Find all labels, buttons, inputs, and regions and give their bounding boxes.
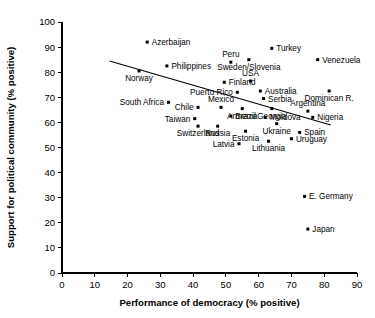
- data-point-marker: [249, 79, 252, 82]
- data-point-marker: [264, 116, 267, 119]
- data-point-label: Moldova: [270, 113, 301, 122]
- data-point-marker: [167, 101, 170, 104]
- data-point-marker: [311, 116, 314, 119]
- data-point-marker: [238, 142, 241, 145]
- data-point-label: Latvia: [213, 140, 235, 149]
- data-point-label: Azerbaijan: [152, 38, 191, 47]
- y-tick-label: 40: [44, 167, 55, 178]
- data-point-marker: [316, 58, 319, 61]
- data-point-label: Estonia: [232, 134, 260, 143]
- data-point-label: Serbia: [268, 95, 292, 104]
- data-point-marker: [262, 97, 265, 100]
- y-tick-label: 30: [44, 192, 55, 203]
- scatter-chart: 0102030405060708090100010203040506070809…: [0, 0, 375, 318]
- x-tick-label: 50: [221, 279, 232, 290]
- data-point-label: Chile: [175, 103, 194, 112]
- data-point-label: E. Germany: [309, 192, 354, 201]
- data-point-label: Argentina: [290, 99, 325, 108]
- x-tick-label: 80: [319, 279, 330, 290]
- data-point-marker: [306, 228, 309, 231]
- data-point-label: South Africa: [120, 98, 165, 107]
- data-points: AzerbaijanTurkeyPeruPhilippinesVenezuela…: [120, 38, 361, 234]
- data-point-marker: [267, 140, 270, 143]
- y-tick-label: 70: [44, 92, 55, 103]
- data-point-marker: [146, 41, 149, 44]
- y-tick-label: 80: [44, 67, 55, 78]
- data-point-marker: [306, 110, 309, 113]
- y-tick-label: 100: [39, 16, 55, 27]
- data-point-label: Lithuania: [252, 144, 286, 153]
- data-point-marker: [138, 69, 141, 72]
- axes: 0102030405060708090100010203040506070809…: [39, 16, 362, 290]
- data-point-marker: [236, 91, 239, 94]
- data-point-marker: [197, 125, 200, 128]
- data-point-marker: [223, 81, 226, 84]
- data-point-marker: [165, 64, 168, 67]
- data-point-marker: [270, 47, 273, 50]
- y-axis-title: Support for political community (% posit…: [5, 47, 16, 248]
- data-point-label: Ukraine: [263, 127, 292, 136]
- data-point-label: Taiwan: [165, 115, 191, 124]
- x-tick-label: 0: [59, 279, 64, 290]
- y-tick-label: 20: [44, 217, 55, 228]
- data-point-marker: [241, 107, 244, 110]
- y-tick-label: 10: [44, 242, 55, 253]
- plot-canvas: 0102030405060708090100010203040506070809…: [0, 0, 375, 318]
- data-point-marker: [275, 122, 278, 125]
- data-point-marker: [290, 137, 293, 140]
- data-point-label: Nigeria: [317, 113, 343, 122]
- data-point-label: Mexico: [208, 95, 234, 104]
- x-tick-label: 60: [253, 279, 264, 290]
- data-point-label: Venezuela: [322, 56, 361, 65]
- data-point-marker: [244, 130, 247, 133]
- data-point-label: Norway: [125, 74, 154, 83]
- y-tick-label: 90: [44, 42, 55, 53]
- data-point-marker: [197, 106, 200, 109]
- x-axis-title: Performance of democracy (% positive): [119, 297, 299, 308]
- data-point-marker: [328, 90, 331, 93]
- x-tick-label: 20: [122, 279, 133, 290]
- data-point-label: Japan: [312, 225, 335, 234]
- data-point-marker: [193, 117, 196, 120]
- y-tick-label: 0: [50, 267, 55, 278]
- data-point-marker: [270, 107, 273, 110]
- y-tick-label: 50: [44, 142, 55, 153]
- x-tick-label: 10: [89, 279, 100, 290]
- data-point-marker: [219, 106, 222, 109]
- x-tick-label: 30: [155, 279, 166, 290]
- data-point-label: Uruguay: [296, 135, 328, 144]
- data-point-marker: [259, 90, 262, 93]
- data-point-marker: [229, 115, 232, 118]
- data-point-label: Peru: [222, 50, 240, 59]
- data-point-label: USA: [242, 69, 259, 78]
- data-point-marker: [247, 58, 250, 61]
- data-point-marker: [303, 195, 306, 198]
- data-point-label: Turkey: [276, 44, 302, 53]
- data-point-label: Brazil: [235, 112, 256, 121]
- x-tick-label: 90: [352, 279, 363, 290]
- data-point-marker: [298, 131, 301, 134]
- x-tick-label: 70: [286, 279, 297, 290]
- x-tick-label: 40: [188, 279, 199, 290]
- data-point-label: Philippines: [171, 62, 211, 71]
- y-tick-label: 60: [44, 117, 55, 128]
- data-point-label: Russia: [205, 129, 230, 138]
- data-point-marker: [216, 125, 219, 128]
